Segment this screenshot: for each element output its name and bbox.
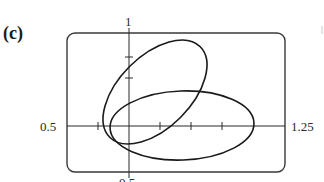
plot-area <box>0 0 324 182</box>
label-ymax: 1 <box>125 15 132 28</box>
label-xmin: 0.5 <box>40 120 56 133</box>
window-frame <box>67 33 285 172</box>
label-xmax: 1.25 <box>291 120 314 133</box>
label-ymin: 0.5 <box>119 176 135 182</box>
